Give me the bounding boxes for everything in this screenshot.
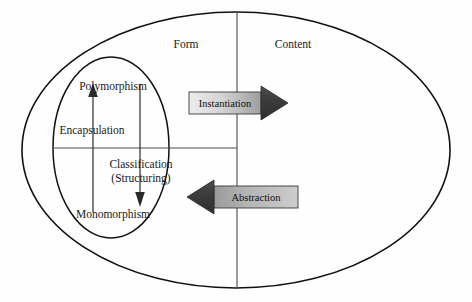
diagram-canvas: Polymorphism Encapsulation Classificatio… — [0, 0, 472, 302]
diagram-background — [0, 0, 472, 302]
label-classification: Classification — [109, 158, 172, 170]
label-polymorphism: Polymorphism — [79, 80, 147, 93]
form-content-diagram: Polymorphism Encapsulation Classificatio… — [0, 0, 472, 302]
label-structuring: (Structuring) — [111, 172, 171, 185]
label-form: Form — [174, 38, 199, 50]
label-instantiation: Instantiation — [199, 98, 252, 109]
label-content: Content — [275, 38, 312, 50]
label-abstraction: Abstraction — [232, 192, 282, 203]
label-encapsulation: Encapsulation — [59, 124, 124, 137]
label-monomorphism: Monomorphism — [76, 208, 150, 221]
